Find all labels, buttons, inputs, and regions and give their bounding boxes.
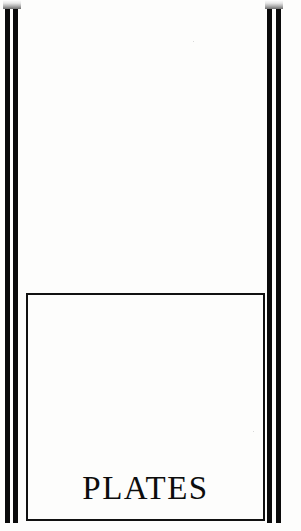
- left-rule-inner: [13, 3, 18, 523]
- inner-frame: PLATES: [26, 293, 265, 521]
- scan-speck: [193, 41, 194, 42]
- page-title: PLATES: [28, 472, 263, 505]
- right-rule-inner: [267, 3, 272, 523]
- left-rule-outer: [5, 3, 10, 523]
- right-rule-outer: [276, 3, 281, 523]
- right-rule-faded-top: [265, 0, 283, 9]
- plates-divider-page: PLATES: [0, 0, 301, 531]
- left-rule-faded-top: [3, 0, 21, 9]
